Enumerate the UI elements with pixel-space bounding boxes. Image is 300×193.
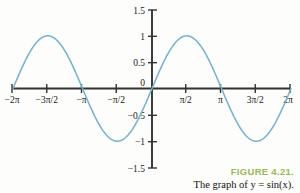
x-tick-label: −3π/2 [36,95,59,105]
y-tick-label: −0.5 [128,111,145,121]
y-tick-label: 1.5 [133,6,145,16]
y-tick-label: 0.5 [133,58,145,68]
x-tick-label: π [218,95,223,105]
x-tick-label: 3π/2 [247,95,264,105]
y-tick-label: −1 [135,137,145,147]
figure-caption-text: The graph of y = sin(x). [96,178,296,191]
y-axis-tick-labels: 1.5 1 0.5 0 −0.5 −1 −1.5 [128,6,145,174]
figure-caption-block: FIGURE 4.21. The graph of y = sin(x). [96,166,296,191]
x-tick-label: π/2 [180,95,192,105]
sine-graph-plot: −2π −3π/2 −π −π/2 π/2 π 3π/2 2π 1.5 1 0.… [0,0,300,193]
x-tick-label: −2π [5,95,20,105]
x-tick-label: −π/2 [107,95,125,105]
figure-container: −2π −3π/2 −π −π/2 π/2 π 3π/2 2π 1.5 1 0.… [0,0,300,193]
figure-number-label: FIGURE 4.21. [96,166,296,178]
y-tick-label: 1 [140,32,145,42]
y-tick-label: 0 [140,78,145,88]
